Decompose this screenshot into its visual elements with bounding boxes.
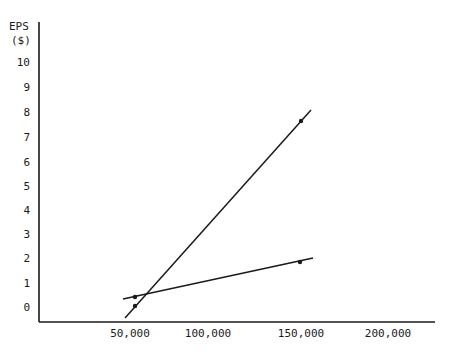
- y-axis-label-line2: ($): [11, 35, 31, 47]
- steep-series-line: [125, 110, 311, 318]
- x-tick-label: 50,000: [95, 328, 165, 340]
- y-tick-label: 2: [0, 253, 30, 265]
- x-tick-label: 100,000: [173, 328, 243, 340]
- y-tick-label: 4: [0, 205, 30, 217]
- shallow-series-point: [298, 260, 302, 264]
- chart-plot: [0, 0, 454, 361]
- y-tick-label: 3: [0, 229, 30, 241]
- shallow-series-line: [123, 258, 313, 299]
- y-tick-label: 10: [0, 57, 30, 69]
- x-tick-label: 150,000: [266, 328, 336, 340]
- steep-series-point: [133, 304, 137, 308]
- y-axis-label-line1: EPS: [9, 21, 29, 33]
- y-tick-label: 0: [0, 302, 30, 314]
- y-tick-label: 9: [0, 82, 30, 94]
- y-tick-label: 5: [0, 181, 30, 193]
- y-tick-label: 6: [0, 157, 30, 169]
- shallow-series-point: [133, 295, 137, 299]
- x-tick-label: 200,000: [353, 328, 423, 340]
- y-tick-label: 8: [0, 107, 30, 119]
- y-tick-label: 7: [0, 132, 30, 144]
- y-tick-label: 1: [0, 278, 30, 290]
- steep-series-point: [299, 119, 303, 123]
- eps-chart: EPS ($) 10 9 8 7 6 5 4 3 2 1 0 50,000 10…: [0, 0, 454, 361]
